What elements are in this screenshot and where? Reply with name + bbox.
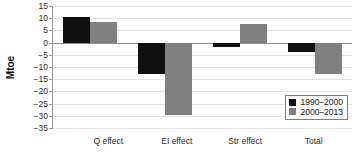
y-axis-title-label: Mtoe bbox=[6, 56, 17, 79]
bar-group bbox=[203, 6, 278, 128]
y-axis-title: Mtoe bbox=[0, 0, 22, 135]
x-axis-category-label: Q effect bbox=[93, 137, 123, 146]
x-axis-category-label: EI effect bbox=[161, 137, 192, 146]
legend-item-label: 1990–2000 bbox=[300, 98, 343, 107]
y-axis-tick-labels: 151050−5−10−15−20−25−30−35 bbox=[22, 6, 50, 128]
bar bbox=[90, 22, 117, 43]
legend-swatch-icon bbox=[289, 99, 296, 106]
x-axis-category-label: Total bbox=[305, 137, 323, 146]
legend-item[interactable]: 1990–2000 bbox=[289, 98, 343, 107]
y-axis-tick-label: 15 bbox=[39, 2, 48, 11]
x-axis-category-labels: Q effectEI effectStr effectTotal bbox=[74, 137, 348, 153]
legend-item-label: 2000–2013 bbox=[300, 108, 343, 117]
bar bbox=[138, 43, 165, 74]
y-axis-tick-label: −5 bbox=[38, 51, 48, 60]
bar-group bbox=[53, 6, 128, 128]
gridline bbox=[53, 128, 352, 129]
bar bbox=[288, 43, 315, 53]
y-axis-tick-label: −20 bbox=[34, 87, 48, 96]
y-axis-tick-label: 10 bbox=[39, 14, 48, 23]
bar-chart: Mtoe 151050−5−10−15−20−25−30−35 Q effect… bbox=[0, 0, 356, 153]
y-axis-tick-label: −15 bbox=[34, 75, 48, 84]
y-axis-tick-label: −30 bbox=[34, 112, 48, 121]
bar-group bbox=[128, 6, 203, 128]
legend-swatch-icon bbox=[289, 108, 296, 115]
bar bbox=[240, 24, 267, 43]
plot-wrapper: 151050−5−10−15−20−25−30−35 Q effectEI ef… bbox=[22, 6, 352, 149]
x-axis-category-label: Str effect bbox=[228, 137, 262, 146]
bar bbox=[63, 17, 90, 42]
chart-legend: 1990–20002000–2013 bbox=[285, 95, 348, 120]
y-axis-tickmark bbox=[49, 128, 53, 129]
y-axis-tick-label: 0 bbox=[43, 38, 48, 47]
y-axis-tick-label: −35 bbox=[34, 124, 48, 133]
bar bbox=[213, 43, 240, 47]
y-axis-tick-label: −10 bbox=[34, 63, 48, 72]
y-axis-tick-label: 5 bbox=[43, 26, 48, 35]
bar bbox=[315, 43, 342, 74]
bar bbox=[165, 43, 192, 115]
y-axis-tick-label: −25 bbox=[34, 99, 48, 108]
legend-item[interactable]: 2000–2013 bbox=[289, 108, 343, 117]
